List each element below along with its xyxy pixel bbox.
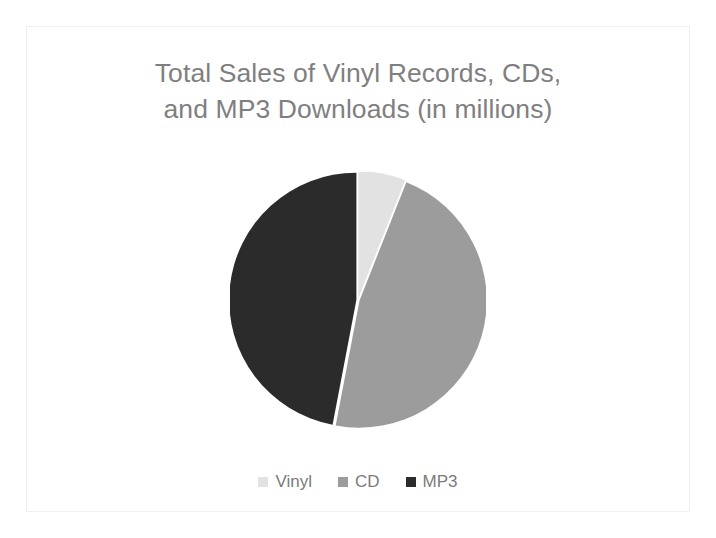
legend-swatch-icon-mp3 — [406, 477, 416, 487]
pie-slices — [230, 172, 486, 428]
legend-item-cd[interactable]: CD — [338, 473, 380, 490]
legend-swatch-icon-cd — [338, 477, 348, 487]
chart-title: Total Sales of Vinyl Records, CDs, and M… — [67, 55, 649, 127]
legend-item-mp3[interactable]: MP3 — [406, 473, 458, 490]
legend-swatch-icon-vinyl — [258, 477, 268, 487]
chart-container[interactable]: Total Sales of Vinyl Records, CDs, and M… — [27, 27, 689, 511]
pie-chart-plot-area[interactable] — [230, 172, 486, 428]
pie-chart-svg — [230, 172, 486, 428]
chart-legend: Vinyl CD MP3 — [27, 473, 689, 490]
pie-slice-mp3[interactable] — [230, 173, 356, 425]
legend-label-mp3: MP3 — [423, 473, 458, 490]
legend-label-cd: CD — [355, 473, 380, 490]
legend-item-vinyl[interactable]: Vinyl — [258, 473, 312, 490]
pie-slice-cd[interactable] — [336, 182, 486, 427]
legend-label-vinyl: Vinyl — [275, 473, 312, 490]
slide-canvas: Total Sales of Vinyl Records, CDs, and M… — [0, 0, 716, 538]
